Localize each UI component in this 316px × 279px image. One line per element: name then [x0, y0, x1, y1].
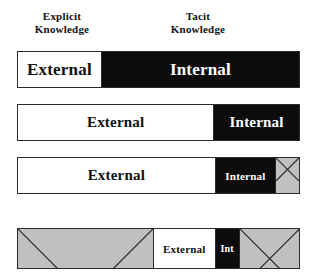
segment-external-bar2: External	[18, 105, 213, 140]
segment-internal-bar2: Internal	[213, 105, 299, 140]
segment-internal-bar3: Internal	[215, 158, 275, 193]
bar-row-2: ExternalInternal	[17, 104, 300, 141]
segment-label: Int	[220, 243, 233, 254]
bar-row-3: ExternalInternal	[17, 157, 300, 194]
bar-row-4: ExternalInt	[17, 228, 300, 269]
segment-label: Internal	[170, 60, 231, 80]
header-label-explicit-knowledge: Explicit Knowledge	[10, 10, 114, 36]
segment-external-bar3: External	[18, 158, 215, 193]
bar-row-1: ExternalInternal	[17, 51, 300, 88]
segment-hatched-bar3	[275, 158, 299, 193]
cross-hatch-icon	[276, 158, 299, 181]
segment-internal-bar1: Internal	[101, 52, 299, 87]
segment-label: External	[88, 167, 145, 184]
header-label-tacit-knowledge: Tacit Knowledge	[146, 10, 250, 36]
segment-int-bar4: Int	[215, 229, 239, 268]
segment-label: External	[87, 114, 144, 131]
cross-hatch-icon	[18, 229, 153, 268]
segment-label: Internal	[230, 114, 284, 131]
segment-hatched-bar4	[239, 229, 299, 268]
knowledge-spectrum-diagram: Explicit Knowledge Tacit Knowledge Exter…	[0, 0, 316, 279]
segment-label: Internal	[225, 170, 265, 182]
segment-label: External	[27, 60, 92, 80]
segment-external-bar1: External	[18, 52, 101, 87]
cross-hatch-icon	[240, 229, 299, 268]
segment-hatched-bar4	[18, 229, 153, 268]
segment-external-bar4: External	[153, 229, 215, 268]
segment-label: External	[163, 243, 206, 255]
